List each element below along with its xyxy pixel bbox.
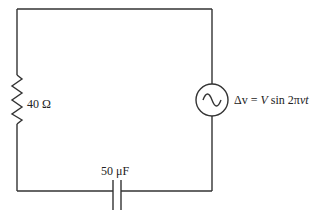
resistor-icon [12,75,22,124]
source-equation-label: Δv = V sin 2πνt [234,93,309,107]
source-sin: sin 2π [268,93,300,107]
resistor-label: 40 Ω [27,97,51,111]
source-freq-time: νt [300,93,309,107]
capacitor-label: 50 μF [101,164,129,178]
source-prefix: Δv = [234,93,260,107]
rc-circuit-diagram: 40 Ω 50 μF Δv = V sin 2πνt [0,0,321,223]
sine-wave-icon [203,94,221,106]
